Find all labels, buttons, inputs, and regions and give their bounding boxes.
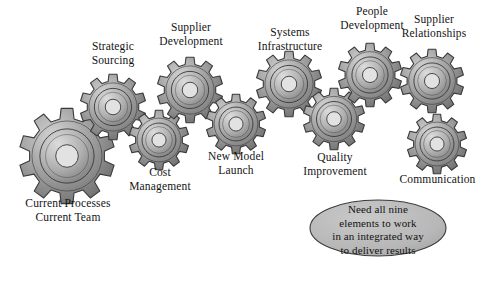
gear-communication [397, 104, 477, 184]
gear-hub-communication [430, 137, 444, 151]
gear-shape-communication [397, 104, 477, 184]
gear-hub-cost-management [152, 133, 166, 147]
gear-label-new-model-launch: New Model Launch [188, 150, 284, 177]
gear-diagram: Current Processes Current Team Strategic… [0, 0, 496, 286]
gear-hub-people-development [362, 67, 377, 82]
gear-label-current-processes: Current Processes Current Team [10, 197, 126, 224]
gear-hub-supplier-relationships [424, 73, 439, 88]
gear-label-communication: Communication [380, 173, 495, 187]
gear-label-supplier-relationships: Supplier Relationships [381, 13, 487, 40]
gear-label-quality-improvement: Quality Improvement [283, 151, 387, 178]
gear-hub-new-model-launch [229, 117, 243, 131]
callout-text: Need all nine elements to work in an int… [310, 203, 446, 257]
gear-label-supplier-development: Supplier Development [139, 21, 243, 48]
